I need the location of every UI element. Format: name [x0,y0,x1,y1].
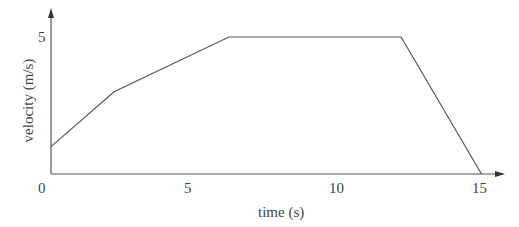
x-tick-0: 0 [38,180,46,197]
x-axis-label: time (s) [258,204,304,221]
x-axis-arrow-icon [495,171,505,177]
x-tick-15: 15 [472,180,487,197]
x-tick-10: 10 [329,180,344,197]
x-tick-5: 5 [184,180,192,197]
y-axis-label: velocity (m/s) [20,41,37,161]
y-tick-5: 5 [38,29,46,46]
velocity-time-plot [0,0,519,227]
y-axis-arrow-icon [48,8,54,18]
velocity-line [51,37,482,174]
